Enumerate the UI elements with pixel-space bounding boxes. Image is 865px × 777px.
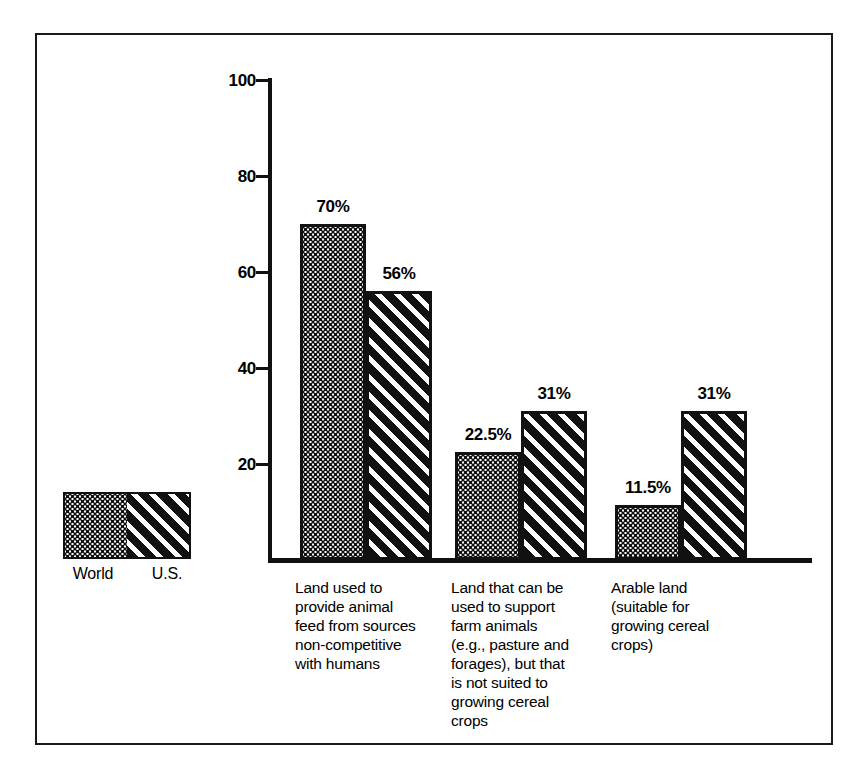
legend-label-world: World (56, 566, 130, 582)
legend-swatches (63, 492, 191, 559)
figure-frame (35, 33, 833, 745)
legend-swatch-us (127, 494, 189, 557)
legend-swatch-world (65, 494, 127, 557)
legend-labels: World U.S. (56, 566, 204, 582)
legend-label-us: U.S. (130, 566, 204, 582)
legend: World U.S. (63, 492, 204, 582)
